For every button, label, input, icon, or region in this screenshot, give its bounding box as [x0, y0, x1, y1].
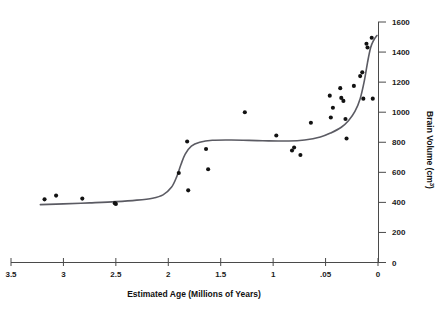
- y-axis-title-main: Brain Volume (cm: [425, 111, 435, 183]
- y-tick-label: 800: [392, 138, 406, 147]
- data-point: [371, 97, 375, 101]
- x-tick-label: 0: [376, 270, 381, 279]
- data-point: [204, 147, 208, 151]
- data-point: [338, 86, 342, 90]
- y-tick-label: 1000: [392, 108, 410, 117]
- y-axis-tick-labels: 02004006008001000120014001600: [392, 18, 410, 268]
- data-point: [365, 46, 369, 50]
- fitted-trend-curve: [40, 36, 377, 205]
- data-point: [358, 74, 362, 78]
- x-tick-label: 1.5: [215, 270, 227, 279]
- x-tick-label: 3: [61, 270, 66, 279]
- data-point: [114, 202, 118, 206]
- data-point: [206, 167, 210, 171]
- data-point: [309, 121, 313, 125]
- x-axis: 3.532.521.51.050: [5, 258, 380, 279]
- data-point: [360, 70, 364, 74]
- data-point: [54, 194, 58, 198]
- y-tick-label: 600: [392, 168, 406, 177]
- data-point: [328, 94, 332, 98]
- data-point: [177, 171, 181, 175]
- data-point: [341, 99, 345, 103]
- data-point: [43, 197, 47, 201]
- data-point: [329, 115, 333, 119]
- y-tick-label: 400: [392, 198, 406, 207]
- x-axis-tick-labels: 3.532.521.51.050: [5, 270, 380, 279]
- data-points-group: [43, 36, 375, 206]
- data-point: [343, 117, 347, 121]
- data-point: [344, 136, 348, 140]
- chart-figure: 3.532.521.51.050 02004006008001000120014…: [0, 0, 442, 313]
- y-tick-label: 1600: [392, 18, 410, 27]
- x-tick-label: 3.5: [5, 270, 17, 279]
- data-point: [331, 106, 335, 110]
- data-point: [243, 110, 247, 114]
- y-tick-label: 200: [392, 228, 406, 237]
- x-tick-label: .05: [320, 270, 332, 279]
- data-point: [352, 84, 356, 88]
- data-point: [274, 133, 278, 137]
- data-point: [364, 42, 368, 46]
- y-axis: 02004006008001000120014001600: [378, 18, 410, 268]
- y-tick-label: 0: [392, 259, 397, 268]
- y-axis-ticks: [378, 22, 386, 263]
- x-tick-label: 2: [166, 270, 171, 279]
- data-point: [361, 97, 365, 101]
- y-tick-label: 1200: [392, 78, 410, 87]
- y-axis-title-close: ): [425, 186, 435, 189]
- data-point: [298, 153, 302, 157]
- x-axis-title: Estimated Age (Millions of Years): [127, 289, 261, 299]
- x-tick-label: 2.5: [110, 270, 122, 279]
- data-point: [185, 139, 189, 143]
- data-point: [80, 197, 84, 201]
- data-point: [370, 36, 374, 40]
- data-point: [186, 188, 190, 192]
- y-tick-label: 1400: [392, 48, 410, 57]
- y-axis-title: Brain Volume (cm3): [425, 111, 435, 189]
- data-point: [292, 145, 296, 149]
- x-tick-label: 1: [271, 270, 276, 279]
- brain-volume-scatter-plot: 3.532.521.51.050 02004006008001000120014…: [0, 0, 442, 313]
